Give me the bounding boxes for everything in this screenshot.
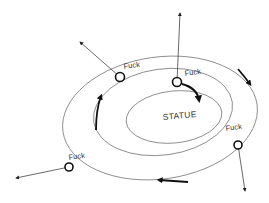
orbit-diagram: Fuck Fuck Fuck Fuck STATUE <box>0 0 269 203</box>
node-right <box>234 141 242 149</box>
node-label-top-left: Fuck <box>123 60 141 71</box>
node-label-top-center: Fuck <box>184 67 202 78</box>
arrow-right <box>238 145 245 191</box>
arrow-top-center <box>177 13 180 82</box>
flow-arrow-inner <box>182 84 199 100</box>
outer-orbit <box>54 44 265 192</box>
node-top-left <box>116 73 125 82</box>
flow-arrow-outer-bottom <box>159 180 188 182</box>
node-left <box>65 163 73 171</box>
flow-arrow-middle-left <box>96 96 101 130</box>
flow-arrow-outer-right <box>238 69 250 84</box>
center-label-statue: STATUE <box>162 109 197 122</box>
arrow-left <box>16 167 69 178</box>
diagram-canvas: Fuck Fuck Fuck Fuck STATUE <box>0 0 269 203</box>
node-label-right: Fuck <box>225 122 243 133</box>
arrow-top-left <box>80 42 120 77</box>
node-label-left: Fuck <box>68 151 86 162</box>
node-top-center <box>173 78 182 87</box>
